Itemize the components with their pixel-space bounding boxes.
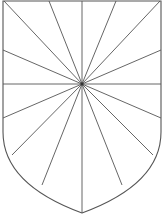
division-line — [82, 1, 160, 84]
division-line — [82, 84, 153, 155]
gyronny-division-lines — [3, 1, 161, 213]
division-line — [42, 84, 82, 185]
division-line — [82, 84, 122, 185]
center-point — [81, 83, 84, 86]
division-line — [12, 84, 82, 155]
shield-diagram — [0, 0, 163, 224]
division-line — [4, 1, 82, 84]
